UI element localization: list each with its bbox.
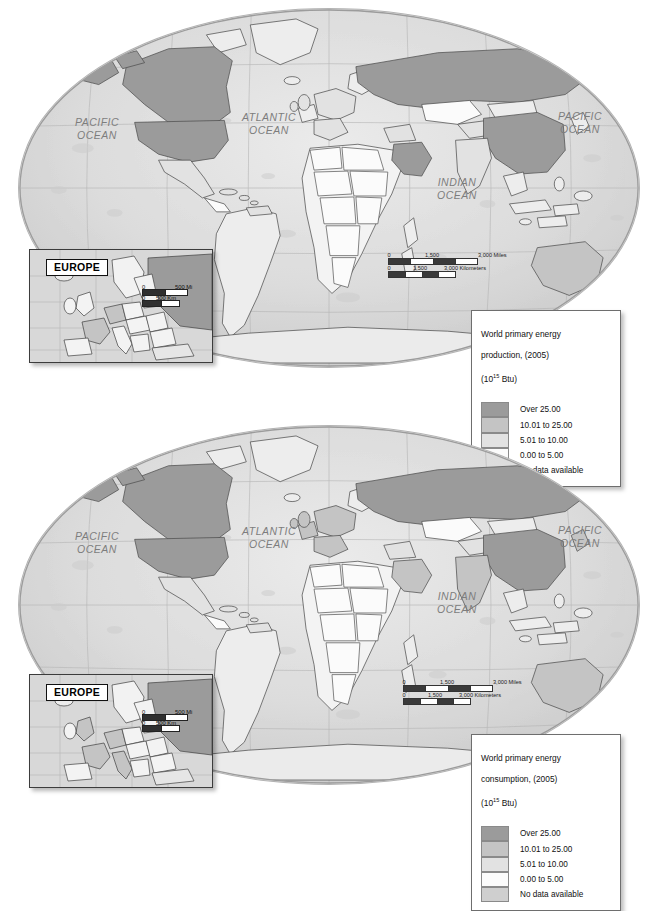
- europe-inset-consumption[interactable]: EUROPE 0 500 Mi 0 500 Km: [29, 674, 213, 788]
- legend-row: 10.01 to 25.00: [481, 841, 611, 856]
- scale-bar-miles-graphic: [403, 685, 493, 692]
- legend-items: Over 25.00 10.01 to 25.00 5.01 to 10.00 …: [481, 826, 611, 902]
- legend-swatch-nodata: [481, 887, 509, 902]
- scale-bar-main: 0 1,500 3,000 Miles 0 1,500 3,000 Kilome…: [403, 679, 501, 705]
- scale-bar-miles-graphic: [388, 258, 478, 265]
- legend-label-nodata: No data available: [520, 890, 583, 899]
- legend-title-line3: (1015 Btu): [481, 371, 611, 384]
- legend-swatch-10-25: [481, 841, 509, 856]
- legend-units-pre: (10: [481, 373, 493, 383]
- map-panel-consumption: PACIFIC OCEAN ATLANTIC OCEAN PACIFIC OCE…: [0, 421, 657, 841]
- legend-row: No data available: [481, 887, 611, 902]
- legend-title-line1: World primary energy: [481, 753, 611, 764]
- legend-units-pre: (10: [481, 797, 493, 807]
- legend-title-line2: consumption, (2005): [481, 774, 611, 785]
- legend-title-line3: (1015 Btu): [481, 795, 611, 808]
- legend-title: World primary energy consumption, (2005)…: [481, 742, 611, 818]
- scale-miles-end: 3,000 Miles: [493, 679, 522, 685]
- legend-title: World primary energy production, (2005) …: [481, 318, 611, 394]
- scale-bar-miles-row: 0 1,500 3,000 Miles: [388, 252, 486, 265]
- legend-label-5-10: 5.01 to 10.00: [520, 860, 568, 869]
- inset-km-graphic: [142, 300, 180, 307]
- map-panel-production: PACIFIC OCEAN ATLANTIC OCEAN PACIFIC OCE…: [0, 0, 657, 420]
- legend-swatch-0-5: [481, 872, 509, 887]
- legend-row: Over 25.00: [481, 826, 611, 841]
- legend-label-over25: Over 25.00: [520, 829, 561, 838]
- scale-bar-main: 0 1,500 3,000 Miles 0 1,500 3,000 Kilome…: [388, 252, 486, 278]
- scale-miles-end: 3,000 Miles: [478, 252, 507, 258]
- europe-inset-production[interactable]: EUROPE 0 500 Mi 0 500 Km: [29, 249, 213, 363]
- inset-scale-miles-row: 0 500 Mi: [142, 709, 202, 720]
- legend-title-line2: production, (2005): [481, 350, 611, 361]
- inset-title-europe: EUROPE: [46, 684, 108, 701]
- legend-swatch-over25: [481, 402, 509, 417]
- legend-consumption: World primary energy consumption, (2005)…: [471, 734, 621, 911]
- inset-scale-km-row: 0 500 Km: [142, 295, 202, 306]
- legend-swatch-5-10: [481, 857, 509, 872]
- inset-km-graphic: [142, 725, 180, 732]
- legend-row: 0.00 to 5.00: [481, 872, 611, 887]
- legend-row: 5.01 to 10.00: [481, 857, 611, 872]
- legend-row: Over 25.00: [481, 402, 611, 417]
- scale-bar-km-graphic: [388, 271, 456, 278]
- legend-units-post: Btu): [499, 797, 517, 807]
- legend-label-0-5: 0.00 to 5.00: [520, 875, 563, 884]
- scale-bar-km-row: 0 1,500 3,000 Kilometers: [388, 265, 486, 278]
- legend-title-line1: World primary energy: [481, 329, 611, 340]
- scale-bar-km-row: 0 1,500 3,000 Kilometers: [403, 692, 501, 705]
- legend-swatch-over25: [481, 826, 509, 841]
- inset-scale-bar: 0 500 Mi 0 500 Km: [142, 284, 202, 306]
- inset-scale-miles-row: 0 500 Mi: [142, 284, 202, 295]
- inset-scale-bar: 0 500 Mi 0 500 Km: [142, 709, 202, 731]
- legend-units-post: Btu): [499, 373, 517, 383]
- scale-bar-km-graphic: [403, 698, 471, 705]
- legend-label-over25: Over 25.00: [520, 405, 561, 414]
- inset-title-europe: EUROPE: [46, 259, 108, 276]
- legend-label-10-25: 10.01 to 25.00: [520, 845, 572, 854]
- scale-bar-miles-row: 0 1,500 3,000 Miles: [403, 679, 501, 692]
- inset-scale-km-row: 0 500 Km: [142, 720, 202, 731]
